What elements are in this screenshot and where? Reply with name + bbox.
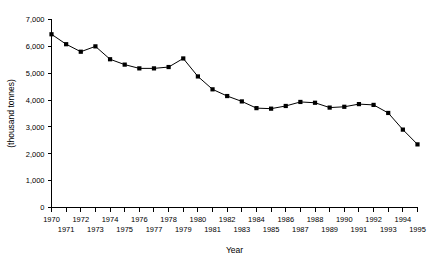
y-tick-label: 0 — [40, 203, 44, 212]
data-point-marker — [79, 50, 83, 54]
data-point-marker — [269, 107, 273, 111]
x-tick-label: 1982 — [219, 215, 236, 224]
x-tick-label: 1991 — [351, 225, 368, 234]
y-tick-label: 4,000 — [26, 96, 45, 105]
x-tick-label: 1972 — [72, 215, 89, 224]
x-tick-label: 1992 — [365, 215, 382, 224]
x-tick-label: 1976 — [131, 215, 148, 224]
x-tick-label: 1988 — [307, 215, 324, 224]
y-tick-label: 5,000 — [26, 69, 45, 78]
data-point-marker — [225, 94, 229, 98]
x-tick-label: 1978 — [160, 215, 177, 224]
x-tick-label: 1995 — [409, 225, 426, 234]
data-point-marker — [64, 42, 68, 46]
data-point-marker — [415, 142, 419, 146]
data-series — [49, 32, 419, 146]
series-polyline — [52, 34, 418, 144]
data-point-marker — [298, 100, 302, 104]
data-point-marker — [210, 87, 214, 91]
data-point-marker — [108, 57, 112, 61]
data-point-marker — [328, 105, 332, 109]
x-tick-label: 1994 — [395, 215, 412, 224]
x-tick-label: 1975 — [116, 225, 133, 234]
x-tick-label: 1980 — [190, 215, 207, 224]
y-tick-label: 2,000 — [26, 150, 45, 159]
data-point-marker — [181, 56, 185, 60]
x-tick-label: 1983 — [233, 225, 250, 234]
y-tick-label: 1,000 — [26, 176, 45, 185]
x-tick-label: 1986 — [277, 215, 294, 224]
x-tick-label: 1990 — [336, 215, 353, 224]
x-tick-label: 1979 — [175, 225, 192, 234]
data-point-marker — [401, 128, 405, 132]
data-point-marker — [196, 74, 200, 78]
x-tick-label: 1974 — [102, 215, 119, 224]
line-chart: 01,0002,0003,0004,0005,0006,0007,000 197… — [0, 0, 435, 266]
x-tick-label: 1984 — [248, 215, 265, 224]
data-point-marker — [313, 101, 317, 105]
x-tick-label: 1971 — [58, 225, 75, 234]
x-tick-label: 1981 — [204, 225, 221, 234]
data-point-marker — [254, 106, 258, 110]
y-axis-title: (thousand tonnes) — [6, 79, 16, 148]
x-tick-label: 1973 — [87, 225, 104, 234]
data-point-marker — [49, 32, 53, 36]
data-point-marker — [386, 111, 390, 115]
y-tick-label: 6,000 — [26, 42, 45, 51]
data-point-marker — [123, 63, 127, 67]
chart-container: 01,0002,0003,0004,0005,0006,0007,000 197… — [0, 0, 435, 266]
data-point-marker — [137, 66, 141, 70]
data-point-marker — [240, 99, 244, 103]
x-axis: 1970197119721973197419751976197719781979… — [43, 208, 426, 235]
x-tick-label: 1970 — [43, 215, 60, 224]
x-tick-label: 1987 — [292, 225, 309, 234]
data-point-marker — [152, 66, 156, 70]
data-point-marker — [371, 103, 375, 107]
data-point-marker — [342, 105, 346, 109]
data-point-marker — [357, 102, 361, 106]
x-tick-label: 1989 — [321, 225, 338, 234]
data-point-marker — [284, 104, 288, 108]
y-axis: 01,0002,0003,0004,0005,0006,0007,000 — [26, 15, 52, 212]
x-tick-label: 1985 — [263, 225, 280, 234]
x-axis-title: Year — [226, 245, 243, 255]
data-point-marker — [93, 44, 97, 48]
y-tick-label: 3,000 — [26, 123, 45, 132]
y-tick-label: 7,000 — [26, 15, 45, 24]
x-tick-label: 1977 — [146, 225, 163, 234]
data-point-marker — [167, 65, 171, 69]
x-tick-label: 1993 — [380, 225, 397, 234]
